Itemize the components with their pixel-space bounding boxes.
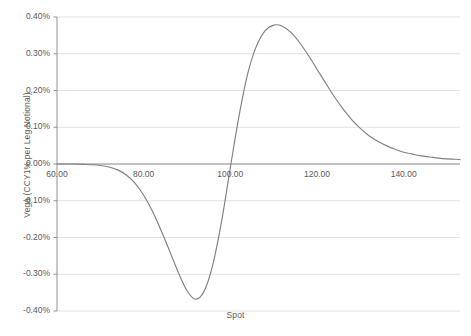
y-axis-tick-label: -0.40% [10, 305, 50, 315]
y-axis-tick-label: -0.30% [10, 268, 50, 278]
y-axis-tick-label: 0.00% [10, 158, 50, 168]
y-axis-tick-label: 0.30% [10, 48, 50, 58]
x-axis-tick-label: 100.00 [205, 169, 255, 179]
chart-container: Vega (CCY1% per Leg Notional) Spot 0.40%… [0, 0, 471, 336]
y-axis-tick-label: -0.20% [10, 232, 50, 242]
data-series-line [57, 25, 460, 300]
y-axis-tick-label: 0.20% [10, 85, 50, 95]
x-axis-tick-label: 80.00 [119, 169, 169, 179]
y-axis-tick-label: 0.40% [10, 11, 50, 21]
line-chart-plot [0, 0, 471, 336]
y-axis-tick-label: 0.10% [10, 121, 50, 131]
x-axis-tick-label: 120.00 [292, 169, 342, 179]
y-axis-tick-label: -0.10% [10, 195, 50, 205]
x-axis-tick-label: 60.00 [32, 169, 82, 179]
x-axis-tick-label: 140.00 [379, 169, 429, 179]
